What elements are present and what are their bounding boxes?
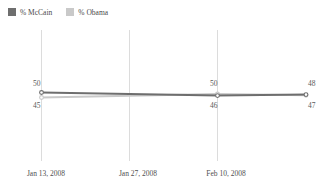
data-point-mccain-feb-10[interactable] xyxy=(216,94,220,98)
value-label-obama-last: 48 xyxy=(308,79,316,88)
value-label-mccain-jan-13: 50 xyxy=(33,79,41,88)
value-label-mccain-last: 47 xyxy=(308,101,316,110)
x-tick-label-jan-13: Jan 13, 2008 xyxy=(27,169,65,179)
value-label-mccain-feb-10: 46 xyxy=(210,101,218,110)
plot-svg xyxy=(0,0,326,186)
data-point-mccain-last[interactable] xyxy=(304,93,308,97)
poll-line-chart: % McCain % Obama xyxy=(0,0,326,186)
plot-area: 50 45 50 46 48 47 xyxy=(0,0,326,186)
value-label-obama-feb-10: 50 xyxy=(210,79,218,88)
x-axis: Jan 13, 2008 Jan 27, 2008 Feb 10, 2008 xyxy=(0,169,326,183)
x-tick-label-feb-10: Feb 10, 2008 xyxy=(206,169,245,179)
data-point-obama-jan-13[interactable] xyxy=(40,96,44,100)
data-point-mccain-jan-13[interactable] xyxy=(40,91,44,95)
value-label-obama-jan-13: 45 xyxy=(33,101,41,110)
series-line-mccain xyxy=(42,93,307,96)
x-tick-label-jan-27: Jan 27, 2008 xyxy=(119,169,157,179)
